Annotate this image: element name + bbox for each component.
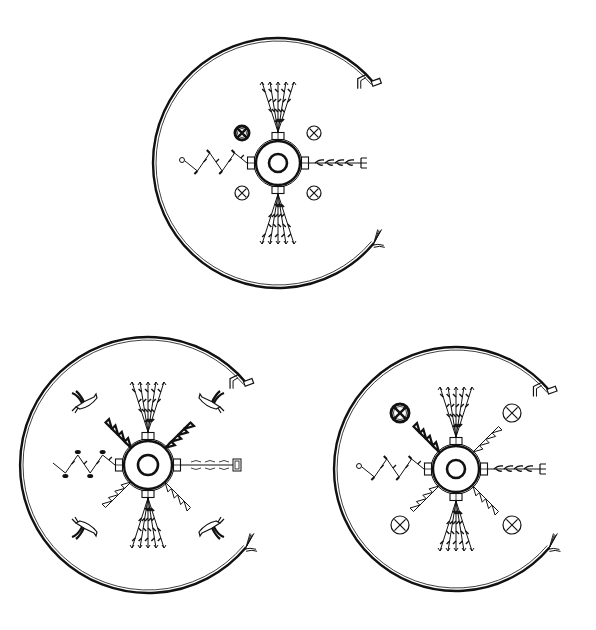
center-ring [248,133,309,194]
plant-down [130,498,166,548]
bird-icon [199,391,224,413]
diagram-top [153,38,385,288]
bird-icon [199,517,224,539]
sandpainting-figure [0,0,596,630]
plant-up [130,382,166,432]
bird-icon [72,391,97,413]
plant-up [260,82,296,132]
plant-down [260,194,296,244]
left-arm [53,450,115,478]
right-arm [488,464,546,474]
bird-icon [72,517,97,539]
right-arm [181,459,241,471]
plant-down [438,501,474,551]
left-arm [357,456,425,480]
plant-up [438,387,474,437]
right-arm [309,158,367,168]
left-arm [180,150,248,174]
diagram-bottom-left [20,337,257,593]
diagram-bottom-right [334,347,560,591]
